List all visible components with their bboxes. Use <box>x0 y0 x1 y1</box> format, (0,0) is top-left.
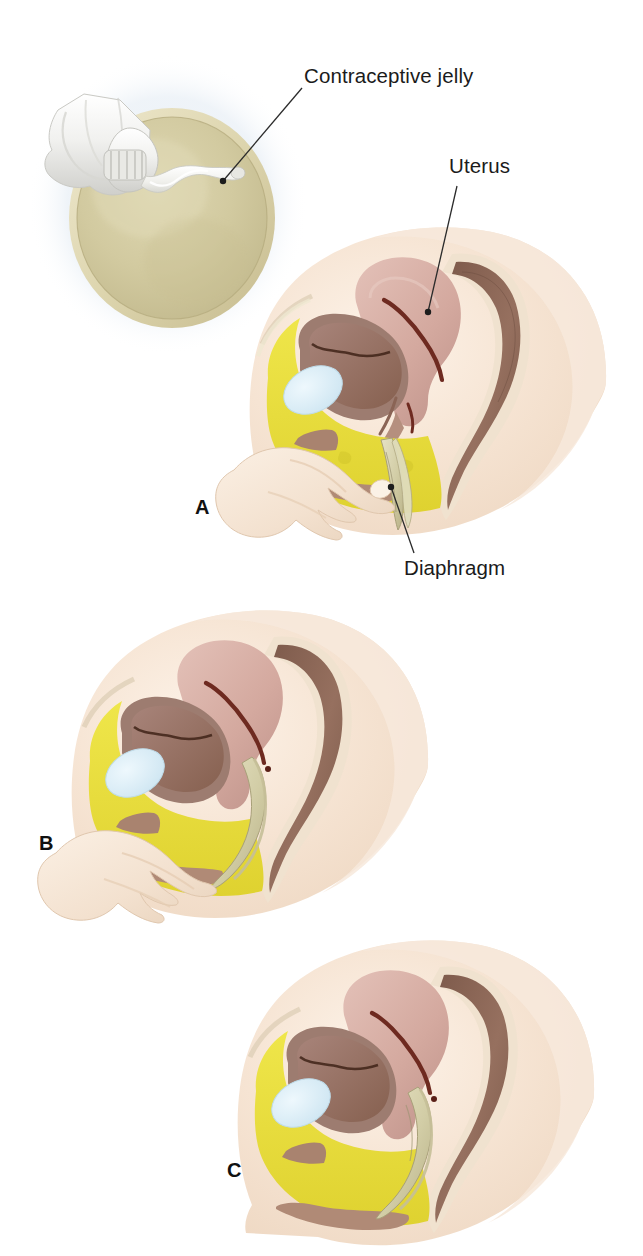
label-uterus: Uterus <box>449 156 510 177</box>
label-diaphragm: Diaphragm <box>404 558 505 579</box>
diaphragm-inset-illustration <box>28 55 308 355</box>
leader-dot-contraceptive-jelly <box>220 178 226 184</box>
tube-cap-ribs <box>104 150 146 180</box>
panel-letter-b: B <box>39 833 53 853</box>
leader-dot-uterus <box>425 309 431 315</box>
panel-letter-c: C <box>227 1160 241 1180</box>
leader-dot-diaphragm <box>388 484 394 490</box>
illustration-canvas <box>0 0 643 1256</box>
cervix-os-marker-c <box>431 1096 437 1102</box>
dome-shadow <box>144 218 248 306</box>
label-contraceptive-jelly: Contraceptive jelly <box>304 66 473 87</box>
cervix-os-marker-b <box>265 766 271 772</box>
figure-root: Contraceptive jelly Uterus Diaphragm A B… <box>0 0 643 1256</box>
panel-letter-a: A <box>195 497 209 517</box>
